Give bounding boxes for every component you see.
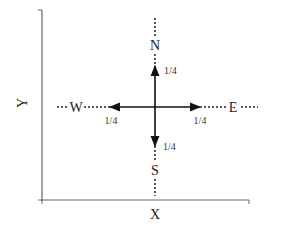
random-walk-diagram: X Y N 1/4 S 1/4 W 1/4 E 1/4 bbox=[0, 0, 282, 230]
west-label: W bbox=[69, 100, 83, 115]
y-axis-label: Y bbox=[15, 98, 30, 108]
south-direction: S 1/4 bbox=[151, 107, 176, 196]
west-probability: 1/4 bbox=[105, 115, 118, 126]
south-probability: 1/4 bbox=[163, 141, 176, 152]
north-probability: 1/4 bbox=[164, 65, 177, 76]
west-direction: W 1/4 bbox=[57, 100, 155, 126]
north-direction: N 1/4 bbox=[150, 18, 177, 107]
south-label: S bbox=[151, 163, 159, 178]
x-axis-label: X bbox=[150, 207, 160, 222]
east-label: E bbox=[229, 100, 238, 115]
north-label: N bbox=[150, 38, 160, 53]
east-direction: E 1/4 bbox=[155, 100, 258, 126]
east-probability: 1/4 bbox=[194, 115, 207, 126]
